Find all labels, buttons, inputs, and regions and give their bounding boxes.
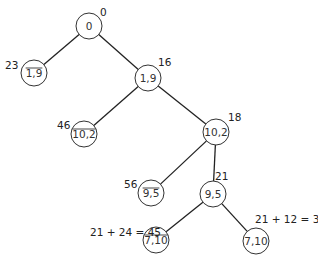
tree-node-10_2: 10,2 [203, 119, 229, 145]
tree-node-root: 0 [76, 13, 102, 39]
node-label: 1,9 [140, 72, 157, 84]
edge-1_9-to-not_10_2 [94, 87, 138, 126]
cost-label-9_5: 21 [215, 170, 228, 182]
cost-label-1_9: 16 [158, 56, 172, 68]
cost-label-not_10_2: 46 [57, 119, 71, 131]
node-label: 10,2 [72, 128, 95, 140]
cost-label-not_7_10: 21 + 24 = 45 [90, 226, 161, 238]
edge-root-to-1_9 [99, 35, 138, 70]
tree-node-not_10_2: 10,2 [71, 121, 97, 147]
edge-9_5-to-not_7_10 [166, 202, 203, 232]
tree-node-7_10: 7,10 [243, 228, 269, 254]
node-label: 0 [86, 20, 93, 32]
node-label: 10,2 [204, 126, 227, 138]
tree-node-not_9_5: 9,5 [138, 180, 164, 206]
edge-10_2-to-not_9_5 [160, 141, 206, 184]
edge-1_9-to-10_2 [158, 86, 206, 124]
node-label: 1,9 [26, 67, 43, 79]
tree-node-not_1_9: 1,9 [21, 60, 47, 86]
edge-9_5-to-7_10 [222, 204, 247, 232]
tree-node-9_5: 9,5 [200, 181, 226, 207]
node-label: 9,5 [205, 188, 222, 200]
cost-label-10_2: 18 [228, 111, 241, 123]
edge-root-to-not_1_9 [44, 34, 79, 64]
cost-label-not_9_5: 56 [124, 178, 138, 190]
node-label: 9,5 [143, 187, 160, 199]
branch-and-bound-tree: 01,91,910,210,29,59,57,107,10 0231646185… [0, 0, 318, 266]
cost-label-root: 0 [100, 6, 107, 18]
node-label: 7,10 [244, 235, 267, 247]
cost-label-not_1_9: 23 [5, 59, 18, 71]
cost-labels: 023164618562121 + 24 = 4521 + 12 = 33 [5, 6, 318, 238]
cost-label-7_10: 21 + 12 = 33 [255, 213, 318, 225]
tree-node-1_9: 1,9 [135, 65, 161, 91]
tree-nodes: 01,91,910,210,29,59,57,107,10 [21, 13, 269, 254]
